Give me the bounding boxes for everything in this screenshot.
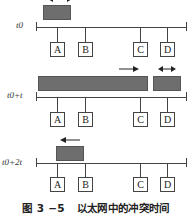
caption-number: 图 3 −5 xyxy=(22,202,65,214)
time-label-t0-plus-t: t0+t xyxy=(7,90,23,100)
drop-c xyxy=(140,27,141,42)
station-a: A xyxy=(50,177,65,192)
frame-d-t0-plus-t xyxy=(153,76,181,91)
drop-a xyxy=(57,97,58,112)
bus-line-t0 xyxy=(36,27,186,28)
station-d: D xyxy=(160,177,175,192)
caption-text: 以太网中的冲突时间 xyxy=(77,202,170,214)
bus-line-t0-plus-2t xyxy=(36,163,186,164)
double-arrow-icon xyxy=(48,0,72,3)
station-d: D xyxy=(160,112,175,127)
station-b: B xyxy=(78,42,93,57)
drop-a xyxy=(57,27,58,42)
station-b: B xyxy=(78,177,93,192)
figure-caption: 图 3 −5 以太网中的冲突时间 xyxy=(0,200,192,215)
drop-c xyxy=(140,163,141,177)
bus-endcap-right xyxy=(186,22,187,31)
left-arrow-icon xyxy=(60,137,80,143)
station-d: D xyxy=(160,42,175,57)
frame-a-t0 xyxy=(43,5,71,20)
station-a: A xyxy=(50,112,65,127)
drop-d xyxy=(167,97,168,112)
time-label-t0-plus-2t: t0+2t xyxy=(2,157,22,167)
station-c: C xyxy=(133,42,148,57)
station-a: A xyxy=(50,42,65,57)
station-b: B xyxy=(78,112,93,127)
frame-a-t0-plus-t xyxy=(38,76,148,91)
drop-c xyxy=(140,97,141,112)
drop-b xyxy=(85,97,86,112)
right-arrow-icon xyxy=(119,66,139,72)
station-c: C xyxy=(133,177,148,192)
bus-endcap-right xyxy=(186,158,187,167)
double-arrow-icon xyxy=(158,66,176,72)
frame-collision-t0-plus-2t xyxy=(56,146,84,161)
station-c: C xyxy=(133,112,148,127)
drop-a xyxy=(57,163,58,177)
drop-b xyxy=(85,27,86,42)
time-label-t0: t0 xyxy=(16,20,23,30)
drop-d xyxy=(167,163,168,177)
drop-b xyxy=(85,163,86,177)
bus-line-t0-plus-t xyxy=(36,97,186,98)
drop-d xyxy=(167,27,168,42)
bus-endcap-right xyxy=(186,92,187,101)
